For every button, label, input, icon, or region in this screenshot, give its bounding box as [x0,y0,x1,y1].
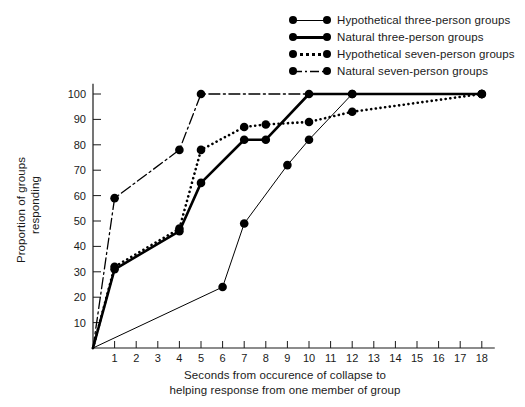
data-point-marker [262,120,271,129]
svg-text:50: 50 [74,215,86,227]
legend-label-natural-seven-person: Natural seven-person groups [337,65,488,78]
y-axis-title-line2: responding [28,130,42,290]
svg-text:80: 80 [74,139,86,151]
svg-text:14: 14 [389,352,401,364]
chart-axes [93,84,495,348]
chart-data-markers [110,90,486,292]
legend-swatch-dash-dot-icon [288,64,332,79]
data-point-marker [478,90,487,99]
svg-text:60: 60 [74,190,86,202]
svg-text:40: 40 [74,240,86,252]
svg-text:18: 18 [476,352,488,364]
svg-text:11: 11 [325,352,336,364]
legend-swatch-dotted-icon [288,47,332,62]
legend-label-hypothetical-seven-person: Hypothetical seven-person groups [337,48,515,61]
data-point-marker [175,224,184,233]
data-point-marker [110,262,119,271]
svg-text:90: 90 [74,113,86,125]
data-point-marker [218,283,227,292]
svg-text:20: 20 [74,291,86,303]
svg-text:8: 8 [263,352,269,364]
svg-text:17: 17 [454,352,466,364]
svg-text:10: 10 [74,317,86,329]
data-point-marker [240,123,249,132]
svg-text:2: 2 [133,352,139,364]
svg-text:9: 9 [284,352,290,364]
svg-text:100: 100 [68,88,86,100]
x-axis-title: Seconds from occurence of collapse to he… [100,368,470,398]
svg-text:16: 16 [432,352,444,364]
data-point-marker [240,135,249,144]
data-point-marker [262,135,271,144]
data-point-marker [110,194,119,203]
y-axis-title: Proportion of groups responding [14,130,42,290]
svg-text:1: 1 [112,352,118,364]
svg-text:13: 13 [368,352,380,364]
legend-item-natural-seven-person: Natural seven-person groups [288,63,520,80]
series-line-2 [93,94,482,348]
svg-text:15: 15 [411,352,423,364]
series-line-3 [93,94,482,348]
legend-label-natural-three-person: Natural three-person groups [337,31,484,44]
chart-figure: 1234567891011121314151617181020304050607… [0,0,525,407]
svg-text:70: 70 [74,164,86,176]
legend-swatch-thick-solid-icon [288,30,332,45]
legend-label-hypothetical-three-person: Hypothetical three-person groups [337,14,510,27]
svg-text:30: 30 [74,266,86,278]
chart-series-lines [93,94,482,348]
legend-item-natural-three-person: Natural three-person groups [288,29,520,46]
data-point-marker [305,90,314,99]
svg-text:5: 5 [198,352,204,364]
legend-item-hypothetical-seven-person: Hypothetical seven-person groups [288,46,520,63]
svg-text:3: 3 [155,352,161,364]
data-point-marker [197,179,206,188]
legend-item-hypothetical-three-person: Hypothetical three-person groups [288,12,520,29]
series-line-1 [93,94,482,348]
data-point-marker [305,135,314,144]
legend-swatch-thin-solid-icon [288,13,332,28]
data-point-marker [197,146,206,155]
chart-tick-marks [93,94,482,348]
svg-text:12: 12 [346,352,358,364]
data-point-marker [283,161,292,170]
data-point-marker [197,90,206,99]
svg-text:10: 10 [303,352,315,364]
chart-tick-labels: 1234567891011121314151617181020304050607… [68,88,488,364]
svg-text:6: 6 [220,352,226,364]
data-point-marker [305,118,314,127]
x-axis-title-line2: helping response from one member of grou… [169,384,400,396]
data-point-marker [348,107,357,116]
x-axis-title-line1: Seconds from occurence of collapse to [184,369,386,381]
chart-legend: Hypothetical three-person groups Natural… [288,12,520,80]
series-line-0 [93,94,482,348]
svg-text:4: 4 [176,352,182,364]
data-point-marker [240,219,249,228]
svg-text:7: 7 [241,352,247,364]
y-axis-title-line1: Proportion of groups [15,157,27,263]
data-point-marker [175,146,184,155]
data-point-marker [348,90,357,99]
